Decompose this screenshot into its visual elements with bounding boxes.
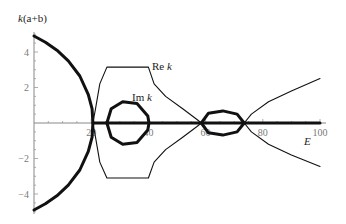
y-tick-label: −4 — [18, 189, 29, 200]
x-tick-label: 80 — [258, 127, 268, 138]
y-tick-label: −2 — [18, 153, 29, 164]
y-tick-label: 4 — [24, 47, 29, 58]
im-k-annotation: Im k — [132, 91, 153, 103]
y-axis-title: k(a+b) — [18, 12, 47, 25]
y-tick-label: 2 — [24, 82, 29, 93]
re-k-annotation: Re k — [152, 60, 173, 72]
band-structure-chart: −4−22420406080100 k(a+b) E Re k Im k — [0, 0, 346, 224]
x-axis-title: E — [303, 135, 311, 147]
x-tick-label: 100 — [313, 127, 328, 138]
re-k-curve — [244, 79, 320, 123]
